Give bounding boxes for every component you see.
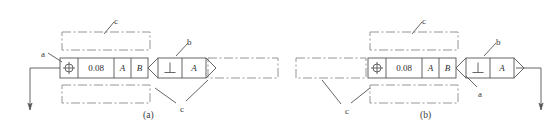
panel-caption-b: (b) <box>420 110 431 120</box>
datum-leader-line <box>30 68 60 110</box>
datum-a: A <box>182 63 206 73</box>
label-a-leader <box>48 53 62 62</box>
label-b: b <box>496 38 501 47</box>
label-c-top: c <box>422 17 426 26</box>
label-b: b <box>187 38 192 47</box>
label-c-top: c <box>114 17 118 26</box>
phantom-box-bottom <box>370 85 458 103</box>
datum-b: B <box>131 63 148 73</box>
panel-caption-a: (a) <box>143 110 154 120</box>
label-c-bottom-leader-0 <box>155 88 176 103</box>
datum-b: B <box>439 63 456 73</box>
label-c-bottom-leader-1 <box>351 88 370 103</box>
tolerance-value: 0.08 <box>78 63 114 73</box>
figure-root: 0.08ABAabcc(a)0.08ABAabcc(b) <box>0 0 556 131</box>
feature-control-frame-a-2-left-chevron <box>148 58 158 78</box>
phantom-box-top <box>370 32 458 50</box>
label-c-bottom: c <box>180 105 184 114</box>
label-c-bottom: c <box>345 107 349 116</box>
feature-control-frame-b-2-left-chevron <box>456 58 466 78</box>
label-a: a <box>41 50 45 59</box>
phantom-box-bottom <box>62 85 150 103</box>
phantom-box-left <box>296 58 366 78</box>
label-c-bottom-leader-0 <box>322 80 341 104</box>
phantom-box-top <box>62 32 150 50</box>
label-a: a <box>478 90 482 99</box>
datum-a: A <box>422 63 439 73</box>
datum-a: A <box>114 63 131 73</box>
phantom-box-right <box>208 58 278 78</box>
datum-a: A <box>490 63 514 73</box>
label-c-bottom-leader-1 <box>186 80 208 101</box>
tolerance-value: 0.08 <box>386 63 422 73</box>
datum-leader-line <box>516 68 541 110</box>
feature-control-frame-a-2-right-chevron <box>206 58 216 78</box>
label-b-leader <box>484 43 496 56</box>
